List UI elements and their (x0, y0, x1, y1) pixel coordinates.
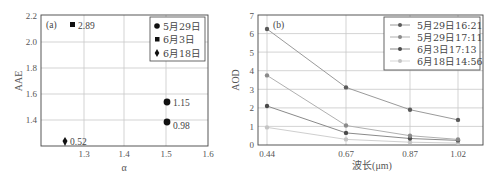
legend-marker-icon (398, 23, 402, 27)
diamond-marker-6-18 (63, 137, 68, 146)
chart-b: 0 1 2 3 4 5 6 7 0.44 0.67 0.87 1.02 波长(μ… (230, 11, 483, 173)
ytick: 2.0 (26, 37, 38, 47)
legend-label: 6月3日 (163, 34, 195, 45)
xtick: 1.6 (202, 149, 214, 159)
ytick: 1.6 (26, 89, 38, 99)
chart-a-yticks: 2.2 2.0 1.8 1.6 1.4 (26, 11, 38, 125)
xtick: 1.4 (118, 149, 130, 159)
annotation-0-52: 0.52 (70, 137, 87, 147)
annotation-0-98: 0.98 (173, 121, 190, 131)
ytick: 7 (250, 11, 255, 21)
chart-b-yticks: 0 1 2 3 4 5 6 7 (250, 11, 255, 151)
legend-marker-icon (398, 35, 402, 39)
chart-a-ylabel: AAE (13, 71, 24, 92)
ytick: 1.4 (26, 115, 38, 125)
legend-label: 5月29日 (163, 21, 201, 32)
xtick: 1.3 (78, 149, 90, 159)
ytick: 3 (250, 85, 255, 95)
ytick: 5 (250, 48, 255, 58)
chart-b-xlabel: 波长(μm) (352, 159, 392, 172)
circle-marker-5-29-b (164, 119, 171, 126)
ytick: 2 (250, 103, 255, 113)
annotation-2-89: 2.89 (78, 21, 95, 31)
circle-marker-5-29-a (164, 99, 171, 106)
legend-label: 6月3日17:13 (417, 44, 476, 55)
square-marker-6-3 (70, 22, 75, 27)
xtick: 0.87 (402, 149, 418, 159)
chart-b-legend: 5月29日16:21 5月29日17:11 6月3日17:13 6月18日14:… (384, 17, 483, 70)
ytick: 4 (250, 66, 255, 76)
legend-label: 5月29日17:11 (417, 32, 483, 43)
legend-label: 6月18日14:56 (417, 56, 483, 67)
ytick: 0 (250, 140, 255, 150)
ytick: 1 (250, 122, 255, 132)
xtick: 1.02 (450, 149, 466, 159)
ytick: 1.8 (26, 63, 38, 73)
chart-b-ylabel: AOD (230, 69, 241, 91)
ytick: 6 (250, 29, 255, 39)
annotation-1-15: 1.15 (173, 98, 190, 108)
ytick: 2.2 (26, 11, 37, 21)
chart-a-legend: 5月29日 6月3日 6月18日 (150, 17, 205, 61)
legend-square-icon (155, 37, 160, 42)
chart-a-xticks: 1.3 1.4 1.5 1.6 (78, 149, 214, 159)
legend-circle-icon (154, 23, 160, 29)
legend-label: 6月18日 (163, 48, 201, 59)
chart-b-panel-label: (b) (273, 20, 284, 31)
legend-marker-icon (398, 47, 402, 51)
legend-marker-icon (398, 59, 402, 63)
xtick: 1.5 (160, 149, 172, 159)
chart-b-xticks: 0.44 0.67 0.87 1.02 (259, 149, 466, 159)
legend-label: 5月29日16:21 (417, 20, 483, 31)
xtick: 0.44 (259, 149, 275, 159)
chart-a-xlabel: α (121, 162, 127, 173)
xtick: 0.67 (338, 149, 354, 159)
series-6-3-1713 (265, 104, 460, 143)
chart-a-panel-label: (a) (46, 20, 57, 31)
chart-a: 2.2 2.0 1.8 1.6 1.4 1.3 1.4 1.5 1.6 α AA… (13, 11, 214, 173)
